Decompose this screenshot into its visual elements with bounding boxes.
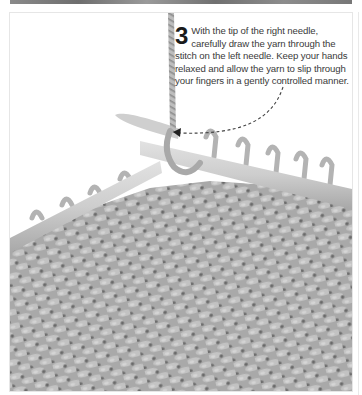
previous-photo-edge	[10, 0, 352, 4]
instruction-frame: 3 With the tip of the right needle, care…	[9, 12, 353, 392]
step-text: With the tip of the right needle, carefu…	[175, 25, 349, 86]
step-number: 3	[175, 26, 188, 45]
step-instruction: 3 With the tip of the right needle, care…	[175, 25, 353, 88]
page-edge-divider	[358, 12, 359, 395]
